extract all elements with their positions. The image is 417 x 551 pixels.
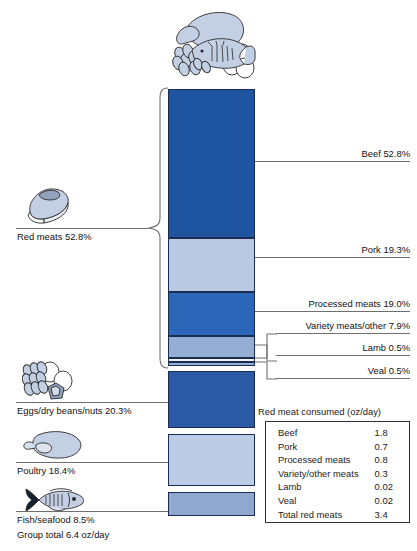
table-cell-value: 0.02 (359, 481, 401, 495)
label-variety-meats: Variety meats/other 7.9% (230, 320, 410, 331)
table-cell-item: Lamb (278, 481, 359, 495)
eggs-beans-nuts-icon (22, 361, 84, 403)
leader-fish-seafood (16, 511, 168, 512)
bar-eggs-dry-beans-nuts (168, 371, 255, 428)
table-cell-value: 0.3 (359, 468, 401, 482)
label-veal: Veal 0.5% (250, 365, 410, 376)
label-fish-seafood: Fish/seafood 8.5% (17, 514, 95, 525)
label-group-total: Group total 6.4 oz/day (17, 529, 109, 540)
table-cell-item: Variety/other meats (278, 468, 359, 482)
meat-poultry-fish-beans-eggs-icon (168, 6, 260, 84)
leader-eggs-beans-nuts (16, 402, 168, 403)
red-meat-consumed-table: Beef 1.8 Pork 0.7 Processed meats 0.8 Va… (265, 421, 410, 523)
table-row: Variety/other meats 0.3 (278, 468, 401, 482)
label-eggs-beans-nuts: Eggs/dry beans/nuts 20.3% (17, 405, 132, 416)
leader-pork (255, 257, 410, 258)
fish-icon (22, 487, 88, 513)
poultry-icon (22, 428, 84, 462)
table-row: Pork 0.7 (278, 441, 401, 455)
label-pork: Pork 19.3% (250, 244, 410, 255)
figure-canvas: Beef 52.8% Pork 19.3% Processed meats 19… (0, 0, 417, 551)
leader-lamb (276, 355, 410, 356)
bar-segment-veal (168, 362, 255, 366)
label-red-meats: Red meats 52.8% (17, 231, 92, 242)
table-cell-item: Total red meats (278, 509, 359, 523)
red-meats-brace (146, 86, 170, 370)
label-poultry: Poultry 18.4% (17, 465, 75, 476)
table-row: Total red meats 3.4 (278, 509, 401, 523)
table-row: Lamb 0.02 (278, 481, 401, 495)
leader-veal (276, 378, 410, 379)
table-cell-value: 0.7 (359, 441, 401, 455)
leader-variety-meats (276, 333, 410, 334)
leader-beef (255, 161, 410, 162)
table-cell-value: 0.02 (359, 495, 401, 509)
leader-red-meats-label (16, 228, 122, 229)
label-processed-meats: Processed meats 19.0% (250, 298, 410, 309)
bar-segment-variety-meats (168, 336, 255, 358)
table-cell-item: Beef (278, 427, 359, 441)
bar-fish-seafood (168, 492, 255, 516)
table-cell-value: 3.4 (359, 509, 401, 523)
table-cell-item: Processed meats (278, 454, 359, 468)
meat-cut-icon (22, 186, 74, 224)
table-cell-value: 0.8 (359, 454, 401, 468)
bar-segment-pork (168, 238, 255, 292)
table-title: Red meat consumed (oz/day) (258, 406, 381, 417)
table-cell-value: 1.8 (359, 427, 401, 441)
table-row: Beef 1.8 (278, 427, 401, 441)
table-row: Veal 0.02 (278, 495, 401, 509)
leader-red-meats (122, 228, 148, 229)
table-cell-item: Veal (278, 495, 359, 509)
label-lamb: Lamb 0.5% (250, 342, 410, 353)
table-row: Processed meats 0.8 (278, 454, 401, 468)
leader-processed-meats (255, 311, 410, 312)
bar-segment-beef (168, 89, 255, 238)
table-cell-item: Pork (278, 441, 359, 455)
leader-poultry (16, 462, 168, 463)
bar-poultry (168, 434, 255, 486)
label-beef: Beef 52.8% (250, 148, 410, 159)
